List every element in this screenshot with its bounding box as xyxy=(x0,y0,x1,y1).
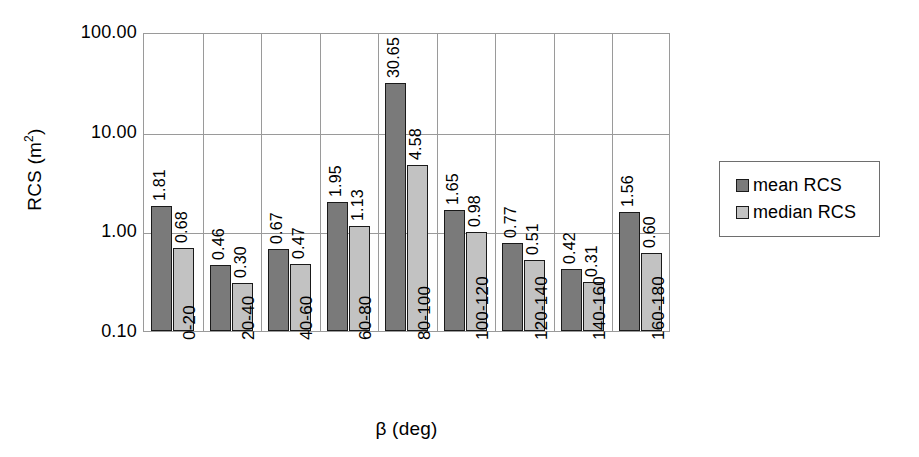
x-tick-label: 140-160 xyxy=(590,276,610,340)
bar-group: 0.670.47 xyxy=(261,34,320,331)
bar-group: 0.460.30 xyxy=(203,34,262,331)
x-axis-title: β (deg) xyxy=(143,418,670,440)
x-tick-label: 20-40 xyxy=(239,296,259,340)
bar-mean[interactable] xyxy=(327,202,348,331)
legend-item[interactable]: mean RCS xyxy=(736,172,879,199)
bar-value-label: 0.47 xyxy=(291,227,307,259)
bar-value-label: 30.65 xyxy=(386,37,402,78)
bar-mean[interactable] xyxy=(444,210,465,331)
bar-value-label: 1.95 xyxy=(328,165,344,197)
y-tick-label: 10.00 xyxy=(45,122,137,143)
legend-swatch-icon xyxy=(736,206,749,219)
x-tick-label: 120-140 xyxy=(532,276,552,340)
y-tick-label: 100.00 xyxy=(45,22,137,43)
bar-value-label: 0.68 xyxy=(174,211,190,243)
bar-value-label: 0.51 xyxy=(525,224,541,256)
bar-value-label: 0.60 xyxy=(642,217,658,249)
bar-value-label: 0.31 xyxy=(584,245,600,277)
bar-mean[interactable] xyxy=(561,269,582,331)
bar-value-label: 1.81 xyxy=(152,169,168,201)
bar-value-label: 0.42 xyxy=(562,232,578,264)
bar-mean[interactable] xyxy=(502,243,523,331)
bar-value-label: 0.67 xyxy=(269,212,285,244)
bar-value-label: 1.13 xyxy=(350,189,366,221)
x-tick-label: 100-120 xyxy=(473,276,493,340)
bar-group: 1.810.68 xyxy=(144,34,203,331)
bar-value-label: 0.77 xyxy=(503,206,519,238)
bar-value-label: 0.30 xyxy=(233,247,249,279)
bar-mean[interactable] xyxy=(210,265,231,331)
y-tick-label: 1.00 xyxy=(45,221,137,242)
x-tick-label: 60-80 xyxy=(356,296,376,340)
y-tick-label: 0.10 xyxy=(45,321,137,342)
bar-mean[interactable] xyxy=(151,206,172,331)
bar-group: 1.951.13 xyxy=(320,34,379,331)
bar-value-label: 1.65 xyxy=(445,173,461,205)
legend-item[interactable]: median RCS xyxy=(736,199,879,226)
rcs-bar-chart: RCS (m2) 100.0010.001.000.10 1.810.680.4… xyxy=(0,0,919,457)
y-axis-ticks: 100.0010.001.000.10 xyxy=(42,0,137,457)
legend-label: mean RCS xyxy=(753,175,842,196)
x-tick-label: 80-100 xyxy=(415,286,435,340)
bar-value-label: 4.58 xyxy=(408,129,424,161)
bar-mean[interactable] xyxy=(268,249,289,331)
x-tick-label: 40-60 xyxy=(297,296,317,340)
bar-value-label: 0.98 xyxy=(467,195,483,227)
x-tick-label: 160-180 xyxy=(649,276,669,340)
legend: mean RCSmedian RCS xyxy=(719,161,880,237)
bar-value-label: 0.46 xyxy=(211,228,227,260)
bar-value-label: 1.56 xyxy=(620,175,636,207)
x-tick-label: 0-20 xyxy=(180,305,200,340)
bar-mean[interactable] xyxy=(385,83,406,331)
legend-label: median RCS xyxy=(753,202,856,223)
y-axis-title-exponent: 2 xyxy=(22,135,36,142)
legend-swatch-icon xyxy=(736,179,749,192)
bar-mean[interactable] xyxy=(619,212,640,331)
